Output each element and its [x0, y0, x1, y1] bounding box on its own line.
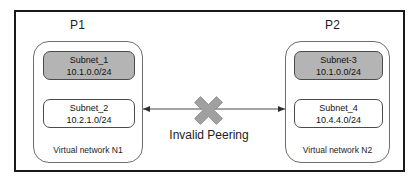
peering-connector	[0, 0, 419, 184]
diagram-canvas: P1 P2 Subnet_1 10.1.0.0/24 Subnet_2 10.2…	[0, 0, 419, 184]
peering-arrowhead-right	[278, 106, 285, 112]
peering-status-text: Invalid Peering	[169, 128, 248, 142]
peering-status-label: Invalid Peering	[0, 128, 419, 142]
peering-arrowhead-left	[143, 106, 150, 112]
x-cross-icon	[195, 97, 223, 125]
